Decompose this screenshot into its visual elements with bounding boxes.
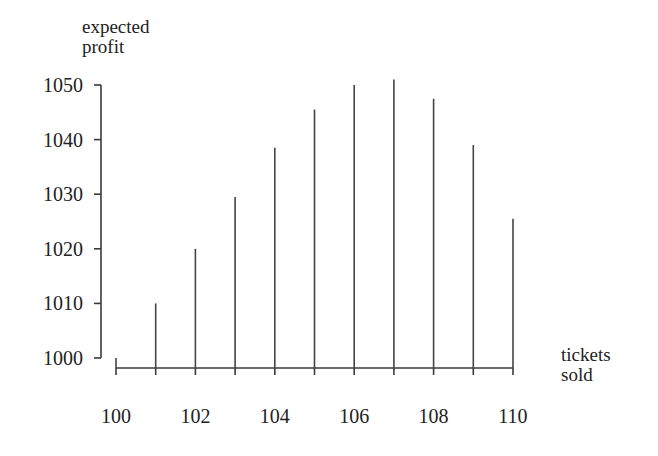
x-axis: 100102104106108110 [101, 368, 528, 427]
y-tick-label: 1000 [43, 347, 83, 369]
x-axis-label-line2: sold [561, 364, 593, 385]
y-tick-label: 1030 [43, 183, 83, 205]
x-tick-label: 100 [101, 405, 131, 427]
y-axis-label-line2: profit [82, 36, 125, 57]
y-tick-label: 1040 [43, 129, 83, 151]
x-tick-label: 102 [180, 405, 210, 427]
x-ticks: 100102104106108110 [101, 368, 528, 427]
y-ticks: 100010101020103010401050 [43, 74, 101, 369]
y-axis-label-line1: expected [82, 16, 150, 37]
y-tick-label: 1050 [43, 74, 83, 96]
x-axis-label-line1: tickets [561, 344, 611, 365]
y-axis-label: expected profit [82, 16, 150, 57]
y-tick-label: 1010 [43, 292, 83, 314]
x-tick-label: 104 [260, 405, 290, 427]
x-tick-label: 110 [498, 405, 527, 427]
y-tick-label: 1020 [43, 238, 83, 260]
x-tick-label: 106 [339, 405, 369, 427]
y-axis: 100010101020103010401050 [43, 74, 101, 369]
x-tick-label: 108 [419, 405, 449, 427]
x-axis-label: tickets sold [561, 344, 611, 385]
bars [116, 80, 513, 368]
profit-chart: expected profit 100010101020103010401050… [0, 0, 658, 456]
